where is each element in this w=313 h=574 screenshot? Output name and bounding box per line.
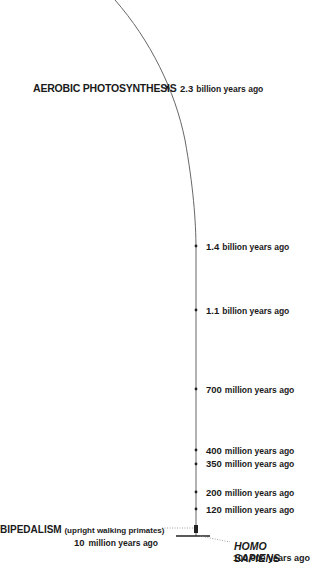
timeline-ticks xyxy=(165,86,198,533)
event-date: 200million years ago xyxy=(206,487,294,498)
event-date: 120million years ago xyxy=(206,504,294,515)
bipedalism-date: 10million years ago xyxy=(0,537,158,548)
event-date: 1.1billion years ago xyxy=(206,305,289,316)
homo-sapiens-leader xyxy=(200,536,230,542)
event-date: 1.4billion years ago xyxy=(206,241,289,252)
bipedalism-label: BIPEDALISM (upright walking primates) xyxy=(0,524,164,535)
event-date: 700million years ago xyxy=(206,384,294,395)
event-date: 2.3billion years ago xyxy=(180,83,263,94)
event-label: AEROBIC PHOTOSYNTHESIS xyxy=(33,82,177,94)
homo-sapiens-date: 100,000 years ago xyxy=(233,553,310,563)
event-date: 400million years ago xyxy=(206,445,294,456)
timeline-line xyxy=(115,0,196,536)
event-date: 350million years ago xyxy=(206,458,294,469)
